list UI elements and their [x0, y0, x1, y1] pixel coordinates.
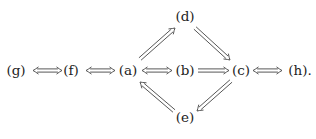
- edge-c-e: [197, 80, 232, 111]
- arrowhead: [253, 67, 259, 74]
- arrow-shaft: [201, 82, 232, 109]
- node-g: (g): [6, 62, 25, 78]
- arrow-shaft: [196, 27, 228, 56]
- arrow-shaft: [199, 80, 230, 107]
- edge-c-h: [253, 67, 282, 74]
- arrowhead: [277, 67, 283, 74]
- arrowhead: [110, 67, 116, 74]
- node-d: (d): [175, 8, 194, 24]
- edge-f-a: [86, 67, 115, 74]
- node-e: (e): [176, 109, 195, 125]
- implication-diagram: (g) (f) (a) (b) (c) (h). (d) (e): [0, 0, 316, 139]
- edge-e-a: [140, 82, 175, 112]
- edge-b-c: [198, 67, 229, 74]
- arrowhead: [142, 67, 148, 74]
- edge-g-f: [33, 67, 62, 74]
- arrow-shaft: [142, 86, 173, 112]
- node-b: (b): [175, 62, 194, 78]
- arrowhead: [33, 67, 39, 74]
- arrow-shaft: [139, 30, 171, 58]
- edge-a-d: [139, 28, 175, 60]
- node-c: (c): [232, 62, 250, 78]
- node-h: (h).: [288, 62, 312, 78]
- node-a: (a): [119, 62, 138, 78]
- arrowhead: [224, 67, 230, 74]
- node-f: (f): [63, 62, 79, 78]
- arrow-shaft: [141, 32, 173, 60]
- arrowhead: [167, 67, 173, 74]
- edge-d-c: [194, 27, 230, 60]
- arrowhead: [86, 67, 92, 74]
- arrow-shaft: [194, 29, 226, 58]
- arrowhead: [57, 67, 63, 74]
- arrow-shaft: [144, 83, 175, 109]
- edge-a-b: [142, 67, 172, 74]
